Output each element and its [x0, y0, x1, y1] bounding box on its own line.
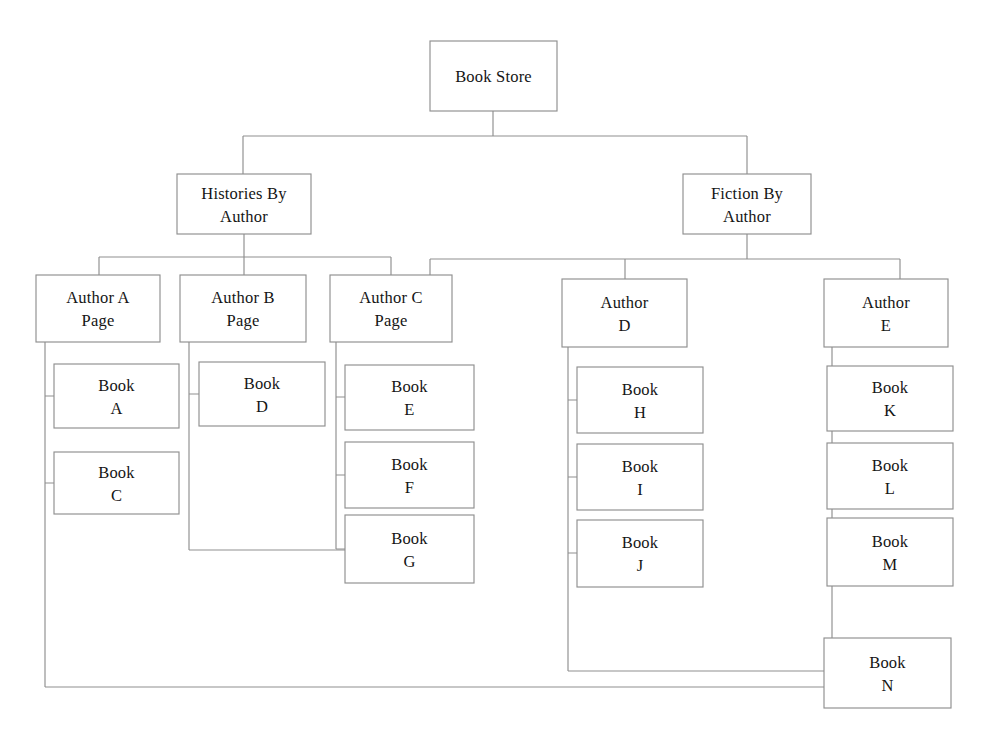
node-label-histories-by-author-line2: Author: [220, 207, 268, 226]
node-book-j[interactable]: BookJ: [577, 520, 703, 587]
node-label-book-f-line2: F: [405, 478, 414, 497]
node-label-book-k-line1: Book: [872, 378, 909, 397]
node-author-c[interactable]: Author CPage: [330, 275, 452, 342]
connector-fiction-to-authors-bus: [430, 234, 900, 279]
node-histories-by-author[interactable]: Histories ByAuthor: [177, 174, 311, 234]
node-box-book-f: [345, 442, 474, 508]
node-book-c[interactable]: BookC: [54, 452, 179, 514]
node-box-book-j: [577, 520, 703, 587]
node-label-author-a-line2: Page: [82, 311, 115, 330]
node-label-book-g-line1: Book: [391, 529, 428, 548]
node-author-d[interactable]: AuthorD: [562, 279, 687, 347]
node-book-h[interactable]: BookH: [577, 367, 703, 433]
node-fiction-by-author[interactable]: Fiction ByAuthor: [683, 174, 811, 234]
node-book-store[interactable]: Book Store: [430, 41, 557, 111]
node-box-book-n: [824, 638, 951, 708]
node-box-author-a: [36, 275, 160, 342]
nodes-layer: Book StoreHistories ByAuthorFiction ByAu…: [36, 41, 953, 708]
node-label-book-j-line2: J: [637, 556, 644, 575]
node-label-book-a-line1: Book: [98, 376, 135, 395]
node-label-book-c-line2: C: [111, 486, 122, 505]
node-author-a[interactable]: Author APage: [36, 275, 160, 342]
node-book-n[interactable]: BookN: [824, 638, 951, 708]
node-author-b[interactable]: Author BPage: [180, 275, 306, 342]
node-label-book-e-line2: E: [404, 400, 414, 419]
node-label-author-d-line1: Author: [601, 293, 649, 312]
node-book-l[interactable]: BookL: [827, 443, 953, 509]
node-box-book-m: [827, 518, 953, 586]
tree-diagram-canvas: Book StoreHistories ByAuthorFiction ByAu…: [0, 0, 985, 737]
node-box-author-c: [330, 275, 452, 342]
node-label-book-m-line1: Book: [872, 532, 909, 551]
node-label-book-i-line2: I: [637, 480, 643, 499]
node-label-author-e-line1: Author: [862, 293, 910, 312]
node-book-a[interactable]: BookA: [54, 364, 179, 428]
node-book-k[interactable]: BookK: [827, 366, 953, 431]
node-box-author-d: [562, 279, 687, 347]
node-label-book-c-line1: Book: [98, 463, 135, 482]
node-book-f[interactable]: BookF: [345, 442, 474, 508]
node-box-book-k: [827, 366, 953, 431]
node-label-author-a-line1: Author A: [66, 288, 129, 307]
node-label-book-e-line1: Book: [391, 377, 428, 396]
node-book-d[interactable]: BookD: [199, 362, 325, 426]
node-label-book-a-line2: A: [110, 399, 122, 418]
connector-histories-to-authors-bus: [99, 234, 391, 275]
node-label-book-store-line1: Book Store: [455, 67, 532, 86]
sitemap-diagram: Book StoreHistories ByAuthorFiction ByAu…: [0, 0, 985, 737]
node-author-e[interactable]: AuthorE: [824, 279, 948, 347]
node-book-i[interactable]: BookI: [577, 444, 703, 510]
node-label-book-g-line2: G: [403, 552, 415, 571]
node-label-book-f-line1: Book: [391, 455, 428, 474]
node-label-fiction-by-author-line2: Author: [723, 207, 771, 226]
connector-root-to-level1-bus: [243, 111, 747, 174]
node-label-author-b-line2: Page: [227, 311, 260, 330]
node-box-author-b: [180, 275, 306, 342]
node-box-book-c: [54, 452, 179, 514]
node-label-book-n-line1: Book: [869, 653, 906, 672]
node-book-g[interactable]: BookG: [345, 515, 474, 583]
node-label-author-b-line1: Author B: [211, 288, 274, 307]
node-book-e[interactable]: BookE: [345, 365, 474, 430]
node-label-book-i-line1: Book: [622, 457, 659, 476]
node-box-book-l: [827, 443, 953, 509]
connector-author-c-spine: [336, 342, 345, 549]
node-label-book-d-line1: Book: [244, 374, 281, 393]
node-label-author-c-line1: Author C: [359, 288, 422, 307]
node-label-book-l-line1: Book: [872, 456, 909, 475]
node-box-book-h: [577, 367, 703, 433]
node-label-book-h-line2: H: [634, 403, 646, 422]
node-box-book-d: [199, 362, 325, 426]
node-label-book-m-line2: M: [883, 555, 898, 574]
node-label-book-n-line2: N: [881, 676, 893, 695]
node-label-author-d-line2: D: [618, 316, 630, 335]
node-label-book-j-line1: Book: [622, 533, 659, 552]
node-label-book-k-line2: K: [884, 401, 896, 420]
node-label-fiction-by-author-line1: Fiction By: [711, 184, 784, 203]
node-label-book-h-line1: Book: [622, 380, 659, 399]
node-book-m[interactable]: BookM: [827, 518, 953, 586]
node-box-author-e: [824, 279, 948, 347]
node-label-book-l-line2: L: [885, 479, 895, 498]
node-box-book-e: [345, 365, 474, 430]
node-box-book-i: [577, 444, 703, 510]
node-label-book-d-line2: D: [256, 397, 268, 416]
node-label-author-e-line2: E: [881, 316, 891, 335]
node-box-book-g: [345, 515, 474, 583]
node-box-book-a: [54, 364, 179, 428]
node-label-author-c-line2: Page: [375, 311, 408, 330]
node-label-histories-by-author-line1: Histories By: [201, 184, 287, 203]
